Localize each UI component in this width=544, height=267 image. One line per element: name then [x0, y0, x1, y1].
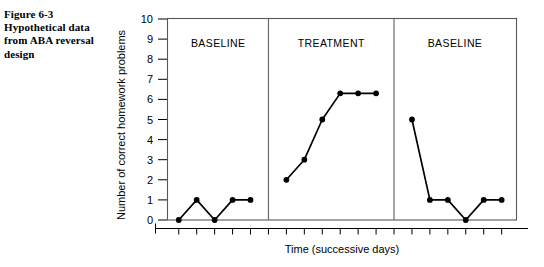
y-axis-title: Number of correct homework problems — [115, 29, 127, 220]
data-point — [212, 217, 218, 223]
data-point — [445, 197, 451, 203]
data-series — [176, 90, 505, 222]
data-point — [230, 197, 236, 203]
figure-container: Figure 6-3 Hypothetical data from ABA re… — [0, 0, 544, 267]
y-tick-label: 0 — [147, 214, 153, 226]
data-point — [319, 117, 325, 123]
data-point — [194, 197, 200, 203]
data-point — [283, 177, 289, 183]
y-axis-ticks: 012345678910 — [141, 13, 167, 226]
data-point — [409, 117, 415, 123]
y-tick-label: 6 — [147, 93, 153, 105]
line-chart: Number of correct homework problems 0123… — [0, 0, 544, 267]
data-point — [176, 217, 182, 223]
phase-label-baseline-2: BASELINE — [428, 37, 483, 49]
data-point — [301, 157, 307, 163]
series-line-baseline-1 — [179, 200, 251, 220]
data-point — [248, 197, 254, 203]
data-point — [337, 90, 343, 96]
data-point — [355, 90, 361, 96]
phase-label-baseline-1: BASELINE — [191, 37, 246, 49]
y-tick-label: 9 — [147, 33, 153, 45]
data-point — [481, 197, 487, 203]
data-point — [499, 197, 505, 203]
y-tick-label: 3 — [147, 154, 153, 166]
data-point — [373, 90, 379, 96]
y-tick-label: 5 — [147, 114, 153, 126]
phase-labels: BASELINETREATMENTBASELINE — [191, 37, 482, 49]
y-tick-label: 2 — [147, 174, 153, 186]
y-tick-label: 8 — [147, 53, 153, 65]
y-tick-label: 1 — [147, 194, 153, 206]
series-line-treatment — [286, 93, 376, 179]
y-axis-title-group: Number of correct homework problems — [115, 29, 127, 220]
data-point — [463, 217, 469, 223]
y-tick-label: 10 — [141, 13, 153, 25]
data-point — [427, 197, 433, 203]
y-tick-label: 7 — [147, 73, 153, 85]
y-tick-label: 4 — [147, 134, 153, 146]
phase-label-treatment: TREATMENT — [298, 37, 365, 49]
series-line-baseline-2 — [412, 120, 502, 221]
phase-dividers — [268, 19, 394, 220]
x-axis-title: Time (successive days) — [285, 243, 400, 255]
